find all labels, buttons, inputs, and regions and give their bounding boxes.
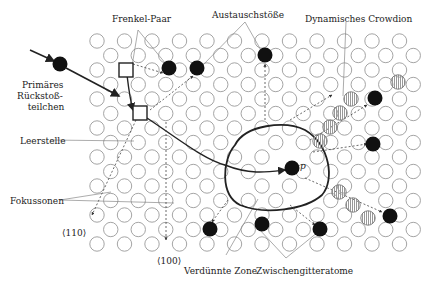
lattice-atom <box>337 121 351 135</box>
lattice-atom <box>214 193 228 207</box>
label-depleted-zone: Verdünnte Zone <box>184 266 257 277</box>
lattice-atom <box>117 34 131 48</box>
interstitial-atom <box>203 222 218 237</box>
lattice-atom <box>214 77 228 91</box>
lattice-atom <box>186 222 200 236</box>
lattice-atom <box>255 179 269 193</box>
lattice-atom <box>365 179 379 193</box>
lattice-atom <box>227 208 241 222</box>
lattice-atom <box>282 121 296 135</box>
lattice-atom <box>90 34 104 48</box>
lattice-atom <box>104 164 118 178</box>
label-dynamic-crowdion: Dynamisches Crowdion <box>305 14 412 25</box>
lattice-atom <box>172 92 186 106</box>
label-interstitials: Zwischengitteratome <box>256 266 353 277</box>
crowdion-atom <box>333 106 347 120</box>
lattice-atom <box>406 164 420 178</box>
lattice-atom <box>379 48 393 62</box>
lattice-atom <box>351 222 365 236</box>
lattice-atom <box>351 48 365 62</box>
interstitial-atom <box>313 222 328 237</box>
lattice-atom <box>200 237 214 251</box>
vacancy-square <box>133 106 147 120</box>
lattice-atom <box>296 222 310 236</box>
lattice-atom <box>227 34 241 48</box>
lattice-atom <box>351 164 365 178</box>
lattice-atom <box>255 150 269 164</box>
lattice-atom <box>379 222 393 236</box>
vacancy-square <box>119 63 133 77</box>
lattice-atom <box>392 92 406 106</box>
lattice-atom <box>172 179 186 193</box>
lattice-atom <box>172 208 186 222</box>
lattice-atom <box>200 34 214 48</box>
interstitial-atom <box>255 217 270 232</box>
crowdion-atom <box>332 185 346 199</box>
label-direction-110: ⟨110⟩ <box>62 228 86 239</box>
label-exchange-collisions: Austauschstöße <box>212 10 284 21</box>
lattice-atom <box>200 179 214 193</box>
lattice-atom <box>296 135 310 149</box>
lattice-atom <box>145 237 159 251</box>
lattice-atom <box>104 193 118 207</box>
lattice-atom <box>241 77 255 91</box>
lattice-atom <box>117 208 131 222</box>
lattice-atom <box>392 34 406 48</box>
lattice-atom <box>214 135 228 149</box>
label-p: p <box>300 161 306 172</box>
lattice-atom <box>406 135 420 149</box>
lattice-atom <box>117 121 131 135</box>
lattice-atom <box>392 237 406 251</box>
lattice-atom <box>269 77 283 91</box>
lattice-atom <box>186 106 200 120</box>
lattice-atom <box>214 106 228 120</box>
lattice-atom <box>90 237 104 251</box>
lattice-atom <box>200 92 214 106</box>
lattice-atom <box>186 164 200 178</box>
lattice-atom <box>310 34 324 48</box>
lattice-atom <box>379 193 393 207</box>
lattice-atom <box>117 237 131 251</box>
lattice-atom <box>310 92 324 106</box>
lattice-atom <box>296 48 310 62</box>
lattice-atom <box>269 106 283 120</box>
lattice-atom <box>145 208 159 222</box>
label-focusons: Fokussonen <box>10 196 64 207</box>
lattice-atom <box>365 237 379 251</box>
lattice-atom <box>365 63 379 77</box>
lattice-atom <box>392 179 406 193</box>
lattice-atom <box>145 121 159 135</box>
lattice-atom <box>227 63 241 77</box>
lattice-atom <box>90 150 104 164</box>
lattice-atom <box>282 237 296 251</box>
lattice-atom <box>324 77 338 91</box>
lattice-atom <box>131 135 145 149</box>
lattice-atom <box>90 208 104 222</box>
label-frenkel-pair: Frenkel-Paar <box>112 14 171 25</box>
lattice-atom <box>241 48 255 62</box>
lattice-atom <box>365 121 379 135</box>
lattice-atom <box>200 121 214 135</box>
lattice-atom <box>145 179 159 193</box>
lattice-atom <box>214 48 228 62</box>
radiation-damage-diagram: Frenkel-Paar Austauschstöße Dynamisches … <box>0 0 422 283</box>
lattice-atom <box>406 193 420 207</box>
lattice-atom <box>104 222 118 236</box>
lattice-atom <box>255 237 269 251</box>
lattice-atom <box>351 77 365 91</box>
lattice-atom <box>351 135 365 149</box>
lattice-atom <box>269 222 283 236</box>
lattice-atom <box>131 164 145 178</box>
lattice-atom <box>310 63 324 77</box>
lattice-atom <box>379 164 393 178</box>
lattice-atom <box>145 63 159 77</box>
lattice-atom <box>172 34 186 48</box>
lattice-atom <box>406 106 420 120</box>
lattice-atom <box>337 34 351 48</box>
lattice-atom <box>255 92 269 106</box>
lattice-atom <box>365 150 379 164</box>
lattice-atom <box>90 179 104 193</box>
lattice-atom <box>104 48 118 62</box>
lattice-atom <box>159 48 173 62</box>
lattice-atom <box>282 34 296 48</box>
